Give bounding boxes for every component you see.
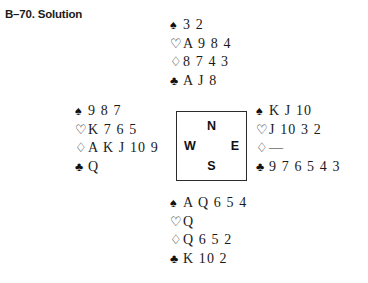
hand-north-hearts: A 9 8 4 bbox=[183, 37, 232, 51]
hand-west-clubs-row: ♣ Q bbox=[75, 160, 159, 179]
hand-south: ♠ A Q 6 5 4 ♡ Q ♢ Q 6 5 2 ♣ K 10 2 bbox=[170, 196, 247, 270]
hand-west-diamonds-row: ♢ A K J 10 9 bbox=[75, 141, 159, 160]
hand-south-clubs-row: ♣ K 10 2 bbox=[170, 252, 247, 271]
club-icon: ♣ bbox=[170, 75, 183, 88]
club-icon: ♣ bbox=[75, 161, 88, 174]
hand-east-diamonds-row: ♢ — bbox=[256, 141, 341, 160]
heart-icon: ♡ bbox=[75, 124, 88, 137]
heart-icon: ♡ bbox=[170, 38, 183, 51]
hand-east-diamonds: — bbox=[269, 141, 284, 155]
compass-label-north: N bbox=[207, 120, 216, 133]
hand-north-spades-row: ♠ 3 2 bbox=[170, 18, 232, 37]
hand-south-diamonds: Q 6 5 2 bbox=[183, 233, 232, 247]
spade-icon: ♠ bbox=[170, 197, 183, 210]
hand-east-spades: K J 10 bbox=[269, 104, 312, 118]
hand-south-hearts-row: ♡ Q bbox=[170, 215, 247, 234]
diamond-icon: ♢ bbox=[75, 142, 88, 155]
compass-box: N W E S bbox=[176, 111, 247, 181]
hand-south-diamonds-row: ♢ Q 6 5 2 bbox=[170, 233, 247, 252]
compass-label-south: S bbox=[207, 160, 215, 173]
heart-icon: ♡ bbox=[256, 124, 269, 137]
hand-south-clubs: K 10 2 bbox=[183, 252, 228, 266]
hand-east-clubs-row: ♣ 9 7 6 5 4 3 bbox=[256, 160, 341, 179]
hand-north-clubs: A J 8 bbox=[183, 74, 217, 88]
spade-icon: ♠ bbox=[256, 105, 269, 118]
hand-north: ♠ 3 2 ♡ A 9 8 4 ♢ 8 7 4 3 ♣ A J 8 bbox=[170, 18, 232, 92]
hand-west-diamonds: A K J 10 9 bbox=[88, 141, 159, 155]
compass-label-east: E bbox=[231, 140, 239, 153]
diamond-icon: ♢ bbox=[170, 234, 183, 247]
hand-west-spades-row: ♠ 9 8 7 bbox=[75, 104, 159, 123]
hand-north-clubs-row: ♣ A J 8 bbox=[170, 74, 232, 93]
page-title: B–70. Solution bbox=[5, 8, 82, 20]
compass-label-west: W bbox=[184, 140, 196, 153]
hand-east-spades-row: ♠ K J 10 bbox=[256, 104, 341, 123]
hand-east: ♠ K J 10 ♡ J 10 3 2 ♢ — ♣ 9 7 6 5 4 3 bbox=[256, 104, 341, 178]
club-icon: ♣ bbox=[256, 161, 269, 174]
hand-east-hearts: J 10 3 2 bbox=[269, 123, 322, 137]
spade-icon: ♠ bbox=[170, 19, 183, 32]
hand-east-hearts-row: ♡ J 10 3 2 bbox=[256, 123, 341, 142]
hand-west: ♠ 9 8 7 ♡ K 7 6 5 ♢ A K J 10 9 ♣ Q bbox=[75, 104, 159, 178]
hand-west-hearts-row: ♡ K 7 6 5 bbox=[75, 123, 159, 142]
hand-south-hearts: Q bbox=[183, 215, 194, 229]
hand-west-clubs: Q bbox=[88, 160, 99, 174]
spade-icon: ♠ bbox=[75, 105, 88, 118]
hand-north-spades: 3 2 bbox=[183, 18, 204, 32]
hand-north-diamonds: 8 7 4 3 bbox=[183, 55, 229, 69]
hand-north-diamonds-row: ♢ 8 7 4 3 bbox=[170, 55, 232, 74]
hand-west-spades: 9 8 7 bbox=[88, 104, 122, 118]
diamond-icon: ♢ bbox=[170, 56, 183, 69]
hand-south-spades-row: ♠ A Q 6 5 4 bbox=[170, 196, 247, 215]
hand-west-hearts: K 7 6 5 bbox=[88, 123, 137, 137]
diamond-icon: ♢ bbox=[256, 142, 269, 155]
hand-east-clubs: 9 7 6 5 4 3 bbox=[269, 160, 341, 174]
heart-icon: ♡ bbox=[170, 216, 183, 229]
hand-north-hearts-row: ♡ A 9 8 4 bbox=[170, 37, 232, 56]
hand-south-spades: A Q 6 5 4 bbox=[183, 196, 247, 210]
club-icon: ♣ bbox=[170, 253, 183, 266]
